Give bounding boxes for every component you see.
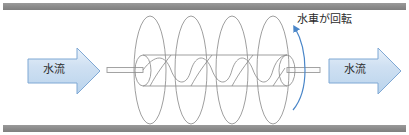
screw-shaft-right	[287, 68, 320, 73]
flow-label-right: 水流	[344, 64, 366, 75]
screw-helix-edges	[143, 55, 287, 86]
screw-flights	[134, 16, 289, 124]
rotation-label: 水車が回転	[297, 14, 352, 25]
diagram-figure: 水流 水流 水車が回転	[0, 0, 409, 135]
screw-shaft-left	[107, 68, 143, 73]
screw-core-cylinder	[135, 55, 295, 86]
flow-label-left: 水流	[43, 64, 65, 75]
screw-shafts	[107, 68, 320, 73]
